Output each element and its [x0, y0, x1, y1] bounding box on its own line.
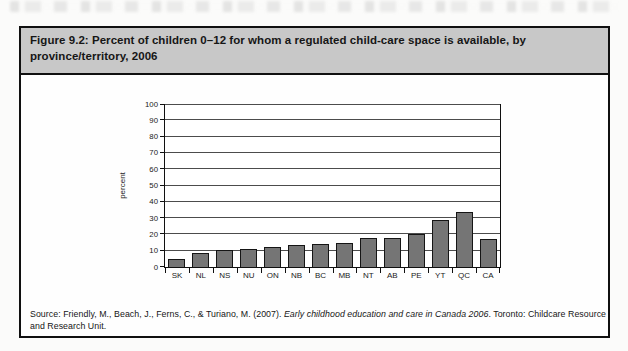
bleed-through-artifact — [10, 1, 620, 12]
x-axis-tick — [476, 268, 477, 273]
y-gridline-80 — [165, 136, 500, 137]
y-axis-tick-label: 90 — [149, 115, 158, 126]
x-axis-tick — [261, 268, 262, 273]
x-axis-tick — [333, 268, 334, 273]
bar-nb — [288, 245, 305, 267]
bar-ns — [216, 250, 233, 267]
y-axis-tick — [160, 250, 165, 251]
y-gridline-30 — [165, 217, 500, 218]
scanned-document-page: Figure 9.2: Percent of children 0–12 for… — [0, 0, 628, 351]
source-citation: Source: Friendly, M., Beach, J., Ferns, … — [30, 308, 608, 332]
x-axis-tick — [428, 268, 429, 273]
y-axis-tick-label: 70 — [149, 147, 158, 158]
y-gridline-40 — [165, 201, 500, 202]
x-axis-tick — [404, 268, 405, 273]
bar-nt — [360, 238, 377, 267]
y-axis-tick — [160, 104, 165, 105]
y-axis-title: percent — [118, 163, 129, 208]
y-axis-tick — [160, 233, 165, 234]
y-axis-tick-label: 30 — [149, 213, 158, 224]
bar-mb — [336, 243, 353, 267]
y-axis-tick — [160, 119, 165, 120]
x-axis-label-ab: AB — [380, 271, 404, 280]
y-axis-tick — [160, 201, 165, 202]
bar-nl — [192, 253, 209, 267]
y-axis-tick — [160, 217, 165, 218]
x-axis-tick — [380, 268, 381, 273]
x-axis-label-ns: NS — [213, 271, 237, 280]
y-axis-tick-label: 100 — [145, 99, 158, 110]
y-gridline-60 — [165, 168, 500, 169]
bar-ab — [384, 238, 401, 267]
y-axis-tick-label: 50 — [149, 180, 158, 191]
x-axis-label-bc: BC — [309, 271, 333, 280]
y-axis-tick-label: 10 — [149, 245, 158, 256]
x-axis-label-nl: NL — [189, 271, 213, 280]
x-axis-label-mb: MB — [332, 271, 356, 280]
y-axis-tick-label: 20 — [149, 229, 158, 240]
y-gridline-10 — [165, 250, 500, 251]
y-gridline-90 — [165, 119, 500, 120]
bar-qc — [456, 212, 473, 267]
bar-bc — [312, 244, 329, 267]
bar-yt — [432, 220, 449, 267]
x-axis-label-ca: CA — [476, 271, 500, 280]
y-axis-tick — [160, 136, 165, 137]
x-axis-tick — [356, 268, 357, 273]
x-axis-tick — [309, 268, 310, 273]
figure-header: Figure 9.2: Percent of children 0–12 for… — [21, 28, 608, 75]
x-axis-label-qc: QC — [452, 271, 476, 280]
y-axis-tick-label: 0 — [154, 262, 158, 273]
plot-area: 0102030405060708090100SKNLNSNUONNBBCMBNT… — [164, 104, 501, 268]
x-axis-label-yt: YT — [428, 271, 452, 280]
x-axis-tick — [213, 268, 214, 273]
y-axis-tick-label: 80 — [149, 131, 158, 142]
figure-body: percent 0102030405060708090100SKNLNSNUON… — [21, 75, 608, 336]
x-axis-tick — [165, 268, 166, 273]
y-gridline-100 — [165, 104, 500, 105]
x-axis-label-sk: SK — [165, 271, 189, 280]
x-axis-tick — [452, 268, 453, 273]
y-gridline-70 — [165, 152, 500, 153]
source-citation-prefix: Source: Friendly, M., Beach, J., Ferns, … — [30, 309, 284, 319]
source-citation-book-title: Early childhood education and care in Ca… — [284, 309, 488, 319]
y-axis-tick — [160, 152, 165, 153]
bar-sk — [168, 259, 185, 267]
y-gridline-20 — [165, 233, 500, 234]
y-gridline-50 — [165, 185, 500, 186]
y-axis-tick-label: 40 — [149, 196, 158, 207]
bar-on — [264, 247, 281, 267]
x-axis-label-nb: NB — [285, 271, 309, 280]
bar-ca — [480, 239, 497, 267]
y-axis-tick — [160, 266, 165, 267]
bar-pe — [408, 234, 425, 267]
y-axis-tick-label: 60 — [149, 164, 158, 175]
x-axis-label-nu: NU — [237, 271, 261, 280]
figure-title: Figure 9.2: Percent of children 0–12 for… — [30, 34, 526, 62]
x-axis-label-pe: PE — [404, 271, 428, 280]
x-axis-label-on: ON — [261, 271, 285, 280]
y-axis-tick — [160, 168, 165, 169]
y-axis-tick — [160, 185, 165, 186]
x-axis-tick — [237, 268, 238, 273]
bar-nu — [240, 249, 257, 267]
x-axis-tick — [499, 268, 500, 273]
x-axis-label-nt: NT — [356, 271, 380, 280]
x-axis-tick — [285, 268, 286, 273]
figure-box: Figure 9.2: Percent of children 0–12 for… — [19, 26, 610, 338]
x-axis-tick — [189, 268, 190, 273]
